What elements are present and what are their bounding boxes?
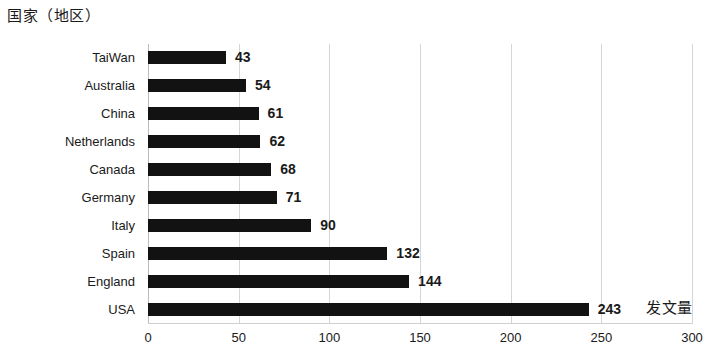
bar-row: 144 [148,268,692,296]
bar-row: 62 [148,128,692,156]
bar-value-label-spain: 132 [396,243,419,263]
bar-row: 61 [148,100,692,128]
y-axis-label-taiwan: TaiWan [0,48,135,68]
bar-row: 132 [148,240,692,268]
x-axis-baseline [148,323,693,324]
bar-row: 71 [148,184,692,212]
bar-value-label-england: 144 [418,271,441,291]
y-axis-label-canada: Canada [0,160,135,180]
y-axis-label-netherlands: Netherlands [0,132,135,152]
x-tick-300: 300 [681,328,703,348]
bar-england[interactable] [148,275,409,288]
bar-usa[interactable] [148,303,589,316]
x-tick-250: 250 [590,328,612,348]
y-axis-label-spain: Spain [0,244,135,264]
bar-chart: 国家（地区） USAEnglandSpainItalyGermanyCanada… [0,0,710,356]
bar-netherlands[interactable] [148,135,260,148]
x-tick-200: 200 [500,328,522,348]
bar-value-label-germany: 71 [286,187,302,207]
x-tick-0: 0 [144,328,151,348]
bar-china[interactable] [148,107,259,120]
gridline-300 [692,44,693,324]
bar-italy[interactable] [148,219,311,232]
bar-canada[interactable] [148,163,271,176]
y-axis-label-usa: USA [0,300,135,320]
x-axis-tick-labels: 050100150200250300 [0,328,710,352]
x-tick-50: 50 [231,328,245,348]
y-axis-label-china: China [0,104,135,124]
x-tick-100: 100 [318,328,340,348]
chart-title: 国家（地区） [7,6,100,26]
bar-germany[interactable] [148,191,277,204]
bar-value-label-usa: 243 [598,299,621,319]
plot-area: 24314413290716862615443 [148,44,692,324]
bar-row: 43 [148,44,692,72]
bar-value-label-canada: 68 [280,159,296,179]
bar-row: 90 [148,212,692,240]
bar-value-label-china: 61 [268,103,284,123]
bar-value-label-netherlands: 62 [269,131,285,151]
bar-australia[interactable] [148,79,246,92]
bar-taiwan[interactable] [148,51,226,64]
bar-spain[interactable] [148,247,387,260]
y-axis-label-germany: Germany [0,188,135,208]
x-tick-150: 150 [409,328,431,348]
x-axis-title: 发文量 [646,298,693,318]
y-axis-label-italy: Italy [0,216,135,236]
bar-row: 54 [148,72,692,100]
y-axis-label-england: England [0,272,135,292]
bar-row: 68 [148,156,692,184]
y-axis-label-australia: Australia [0,76,135,96]
bar-row: 243 [148,296,692,324]
bar-value-label-taiwan: 43 [235,47,251,67]
y-axis-category-labels: USAEnglandSpainItalyGermanyCanadaNetherl… [0,44,141,324]
bar-value-label-italy: 90 [320,215,336,235]
bar-value-label-australia: 54 [255,75,271,95]
